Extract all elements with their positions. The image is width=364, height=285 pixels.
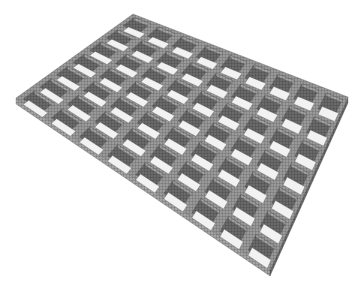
mesh-render: 3D rendered cellular grid mesh structure… xyxy=(0,0,364,285)
cellular-grid-structure xyxy=(0,0,364,285)
